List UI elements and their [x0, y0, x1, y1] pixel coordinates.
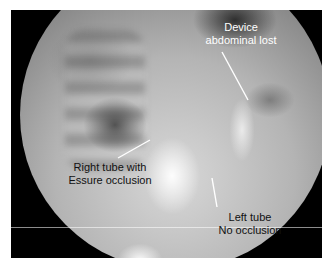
- right-tube-label-line1: Right tube with: [60, 161, 160, 174]
- device-label-line2: abdominal lost: [205, 34, 277, 47]
- spine-shadow: [65, 30, 145, 170]
- left-tube-label: Left tube No occlusion: [210, 211, 290, 237]
- device-label: Device abdominal lost: [205, 21, 277, 47]
- device-label-line1: Device: [205, 21, 277, 34]
- right-tube-label-line2: Essure occlusion: [60, 174, 160, 187]
- left-tube-label-line2: No occlusion: [210, 224, 290, 237]
- left-tube-label-line1: Left tube: [210, 211, 290, 224]
- right-tube-label: Right tube with Essure occlusion: [60, 161, 160, 187]
